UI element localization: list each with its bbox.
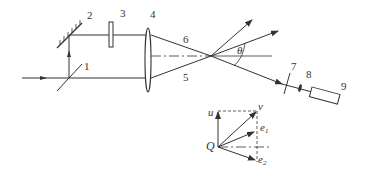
beam-6-continued: [211, 56, 282, 84]
detector-9: [309, 87, 340, 104]
scattered-beam: [211, 20, 252, 56]
label-theta: θ: [237, 44, 243, 56]
label-9: 9: [341, 80, 347, 92]
label-3: 3: [120, 7, 126, 19]
label-8: 8: [306, 68, 312, 80]
vertical-beam: [67, 35, 71, 78]
beam-5-continued: [211, 31, 278, 56]
label-5: 5: [183, 71, 189, 83]
element-3: [109, 22, 113, 47]
label-4: 4: [150, 8, 156, 20]
optical-setup-diagram: 1 2 3 4 6 5 θ 7 8 9: [0, 0, 365, 176]
label-6: 6: [183, 33, 189, 45]
element-7: [284, 73, 290, 94]
label-Q: Q: [206, 139, 215, 153]
input-beam: [22, 76, 148, 80]
beam-6: [151, 35, 211, 56]
label-e2: e2: [258, 153, 267, 167]
vector-e1: [218, 132, 254, 147]
label-u: u: [208, 106, 214, 118]
label-v: v: [258, 100, 263, 112]
beam-5: [151, 56, 211, 78]
vector-e2: [218, 147, 255, 160]
lens-4: [145, 28, 151, 92]
vector-diagram: [218, 111, 272, 162]
label-e1: e1: [260, 121, 268, 135]
vector-v: [218, 112, 256, 147]
label-2: 2: [87, 9, 93, 21]
label-7: 7: [291, 60, 297, 72]
label-1: 1: [84, 60, 90, 72]
